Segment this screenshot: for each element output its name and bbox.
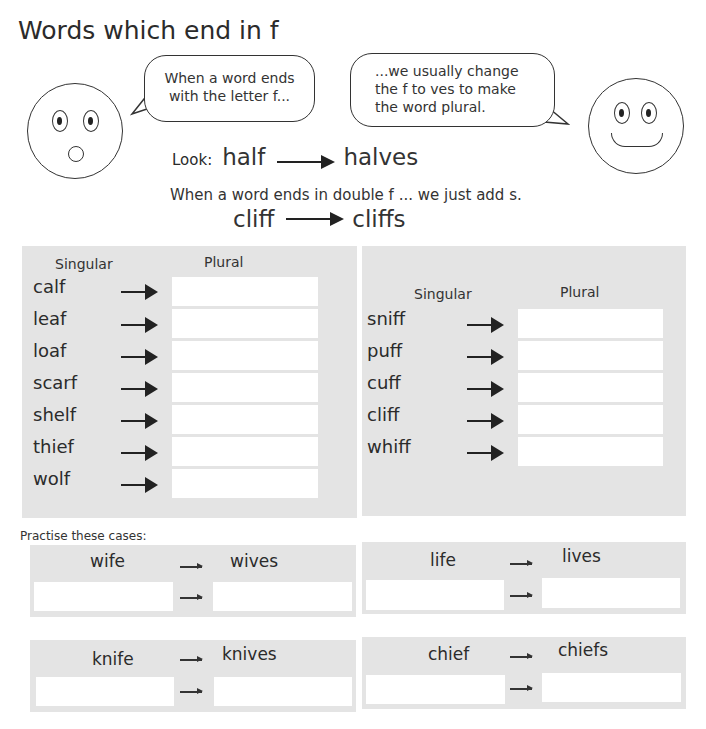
example-plural: halves: [343, 144, 418, 170]
right-eye-icon: [83, 110, 99, 132]
arrow-icon: [510, 563, 532, 565]
singular-input[interactable]: [366, 580, 504, 610]
look-label: Look:: [172, 151, 212, 169]
bubble-line: ...we usually change: [375, 62, 542, 80]
singular-word: leaf: [33, 308, 66, 329]
bubble-line: the word plural.: [375, 98, 542, 116]
arrow-icon: [121, 452, 156, 454]
case-plural: wives: [230, 551, 278, 571]
arrow-icon: [121, 324, 156, 326]
plural-input[interactable]: [518, 341, 663, 370]
singular-input[interactable]: [34, 582, 173, 611]
open-mouth-icon: [68, 146, 84, 162]
arrow-icon: [180, 659, 202, 661]
plural-input[interactable]: [214, 677, 352, 706]
arrow-icon: [121, 356, 156, 358]
arrow-icon: [467, 452, 502, 454]
singular-word: puff: [367, 340, 402, 361]
f-words-table: Singular Plural calf leaf loaf scarf she…: [22, 246, 357, 518]
practise-case: life lives: [362, 542, 686, 614]
practise-label: Practise these cases:: [20, 529, 146, 543]
singular-word: cuff: [367, 372, 401, 393]
singular-word: whiff: [367, 436, 411, 457]
singular-word: calf: [33, 276, 65, 297]
plural-input[interactable]: [172, 309, 318, 338]
arrow-icon: [467, 388, 502, 390]
arrow-icon: [121, 388, 156, 390]
case-singular: chief: [428, 644, 469, 664]
plural-input[interactable]: [542, 673, 681, 702]
left-eye-icon: [614, 102, 630, 124]
practise-case: wife wives: [30, 545, 356, 617]
arrow-icon: [121, 484, 156, 486]
arrow-icon: [180, 566, 202, 568]
arrow-icon: [510, 688, 532, 690]
case-plural: chiefs: [558, 640, 608, 660]
double-singular: cliff: [233, 206, 274, 232]
speech-bubble-right: ...we usually change the f to ves to mak…: [350, 53, 555, 127]
plural-input[interactable]: [172, 437, 318, 466]
singular-word: loaf: [33, 340, 66, 361]
double-f-note: When a word ends in double f ... we just…: [170, 186, 522, 204]
case-singular: wife: [90, 551, 125, 571]
plural-input[interactable]: [213, 582, 352, 611]
singular-word: wolf: [33, 468, 70, 489]
plural-input[interactable]: [542, 578, 680, 608]
singular-word: shelf: [33, 404, 76, 425]
plural-input[interactable]: [518, 437, 663, 466]
plural-input[interactable]: [172, 277, 318, 306]
singular-input[interactable]: [366, 675, 505, 704]
plural-input[interactable]: [172, 373, 318, 402]
singular-word: thief: [33, 436, 74, 457]
double-example-row: cliff cliffs: [233, 206, 406, 232]
plural-input[interactable]: [172, 469, 318, 498]
bubble-line: the f to ves to make: [375, 80, 542, 98]
arrow-icon: [286, 218, 342, 220]
practise-case: knife knives: [30, 640, 356, 712]
example-singular: half: [222, 144, 265, 170]
arrow-icon: [180, 597, 202, 599]
singular-input[interactable]: [36, 677, 174, 706]
double-plural: cliffs: [352, 206, 405, 232]
arrow-icon: [467, 356, 502, 358]
surprised-face-icon: [27, 83, 123, 179]
speech-bubble-left: When a word ends with the letter f...: [144, 55, 315, 122]
arrow-icon: [510, 595, 532, 597]
smiling-face-icon: [588, 78, 684, 174]
plural-input[interactable]: [518, 373, 663, 402]
arrow-icon: [510, 656, 532, 658]
practise-case: chief chiefs: [362, 637, 686, 709]
arrow-icon: [467, 324, 502, 326]
page-title: Words which end in f: [18, 16, 279, 45]
singular-header: Singular: [55, 256, 113, 272]
right-eye-icon: [641, 102, 657, 124]
singular-header: Singular: [414, 286, 472, 302]
bubble-line: When a word ends: [157, 69, 302, 87]
bubble-line: with the letter f...: [157, 87, 302, 105]
left-eye-icon: [52, 110, 68, 132]
plural-input[interactable]: [518, 405, 663, 434]
arrow-icon: [277, 161, 333, 163]
arrow-icon: [121, 420, 156, 422]
case-singular: life: [430, 550, 456, 570]
arrow-icon: [121, 291, 156, 293]
plural-header: Plural: [204, 254, 243, 270]
plural-input[interactable]: [518, 309, 663, 338]
singular-word: cliff: [367, 404, 399, 425]
smile-mouth-icon: [611, 133, 663, 147]
plural-input[interactable]: [172, 341, 318, 370]
ff-words-table: Singular Plural sniff puff cuff cliff wh…: [362, 246, 686, 516]
singular-word: sniff: [367, 308, 405, 329]
singular-word: scarf: [33, 372, 77, 393]
plural-header: Plural: [560, 284, 599, 300]
example-row: Look: half halves: [172, 144, 418, 180]
case-plural: knives: [222, 644, 277, 664]
case-singular: knife: [92, 649, 134, 669]
arrow-icon: [180, 691, 202, 693]
case-plural: lives: [562, 546, 601, 566]
arrow-icon: [467, 420, 502, 422]
plural-input[interactable]: [172, 405, 318, 434]
